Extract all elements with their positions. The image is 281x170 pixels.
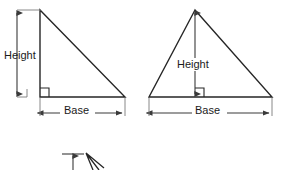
diagram-acute-triangle: Height Base	[149, 10, 272, 117]
partial-diagram	[62, 153, 104, 170]
acute-triangle-outline	[149, 10, 272, 97]
base-label: Base	[195, 104, 220, 116]
right-angle-marker	[195, 88, 204, 97]
height-label: Height	[177, 58, 209, 70]
height-label: Height	[4, 49, 36, 61]
right-angle-marker	[40, 88, 49, 97]
figure-canvas: Height Base Height Base	[0, 0, 281, 170]
partial-wedge-lines	[86, 153, 104, 170]
right-triangle-outline	[40, 10, 125, 97]
triangles-illustration: Height Base Height Base	[0, 0, 281, 170]
base-label: Base	[64, 104, 89, 116]
diagram-right-triangle: Height Base	[4, 10, 125, 117]
height-extension-bottom	[17, 89, 27, 97]
